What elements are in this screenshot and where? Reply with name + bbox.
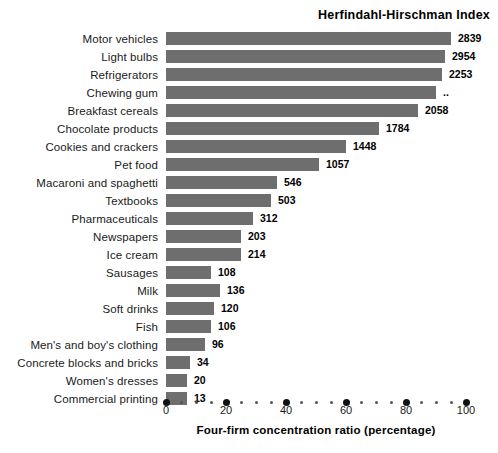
bar-track: 1057 bbox=[166, 158, 496, 172]
bar-track: .. bbox=[166, 86, 496, 100]
bar-value-label: 1448 bbox=[353, 139, 376, 153]
bar bbox=[166, 194, 271, 207]
bar bbox=[166, 320, 211, 333]
bar-value-label: 96 bbox=[212, 337, 224, 351]
bar-track: 20 bbox=[166, 374, 496, 388]
bar-track: 214 bbox=[166, 248, 496, 262]
bar-value-label: 108 bbox=[218, 265, 236, 279]
chart-row: Textbooks503 bbox=[0, 192, 498, 210]
category-label: Concrete blocks and bricks bbox=[0, 357, 158, 370]
bar-value-label: 106 bbox=[218, 319, 236, 333]
chart-row: Ice cream214 bbox=[0, 246, 498, 264]
chart-row: Refrigerators2253 bbox=[0, 66, 498, 84]
bar-value-label: 2058 bbox=[425, 103, 448, 117]
category-label: Cookies and crackers bbox=[0, 141, 158, 154]
bar bbox=[166, 374, 187, 387]
x-axis-tick-labels: 020406080100 bbox=[166, 404, 466, 420]
bar bbox=[166, 248, 241, 261]
bar-value-label: 546 bbox=[284, 175, 302, 189]
bar-track: 2954 bbox=[166, 50, 496, 64]
chart-row: Milk136 bbox=[0, 282, 498, 300]
bar-value-label: 34 bbox=[197, 355, 209, 369]
bar-chart-figure: Herfindahl-Hirschman Index Motor vehicle… bbox=[0, 0, 498, 453]
category-label: Soft drinks bbox=[0, 303, 158, 316]
bar bbox=[166, 302, 214, 315]
category-label: Newspapers bbox=[0, 231, 158, 244]
category-label: Chocolate products bbox=[0, 123, 158, 136]
bar-value-label: 1784 bbox=[386, 121, 409, 135]
chart-row: Motor vehicles2839 bbox=[0, 30, 498, 48]
bar-track: 34 bbox=[166, 356, 496, 370]
bar-track: 503 bbox=[166, 194, 496, 208]
chart-row: Breakfast cereals2058 bbox=[0, 102, 498, 120]
chart-row: Men's and boy's clothing96 bbox=[0, 336, 498, 354]
bar-value-label: 1057 bbox=[326, 157, 349, 171]
category-label: Ice cream bbox=[0, 249, 158, 262]
bar-track: 1784 bbox=[166, 122, 496, 136]
chart-title: Herfindahl-Hirschman Index bbox=[318, 8, 490, 22]
bar bbox=[166, 68, 442, 81]
bar-track: 312 bbox=[166, 212, 496, 226]
category-label: Chewing gum bbox=[0, 87, 158, 100]
category-label: Men's and boy's clothing bbox=[0, 339, 158, 352]
bar-track: 203 bbox=[166, 230, 496, 244]
bar-value-label: 312 bbox=[260, 211, 278, 225]
category-label: Commercial printing bbox=[0, 393, 158, 406]
bar-value-label: 2839 bbox=[458, 31, 481, 45]
bar-track: 96 bbox=[166, 338, 496, 352]
chart-row: Chocolate products1784 bbox=[0, 120, 498, 138]
bar-value-label: 120 bbox=[221, 301, 239, 315]
bar bbox=[166, 212, 253, 225]
x-axis-title: Four-firm concentration ratio (percentag… bbox=[166, 424, 466, 436]
category-label: Pet food bbox=[0, 159, 158, 172]
bar bbox=[166, 104, 418, 117]
bar-track: 136 bbox=[166, 284, 496, 298]
chart-row: Newspapers203 bbox=[0, 228, 498, 246]
bar bbox=[166, 356, 190, 369]
category-label: Fish bbox=[0, 321, 158, 334]
bar-value-label: 136 bbox=[227, 283, 245, 297]
bar bbox=[166, 338, 205, 351]
chart-row: Pet food1057 bbox=[0, 156, 498, 174]
bar bbox=[166, 50, 445, 63]
bar-value-label: .. bbox=[443, 85, 449, 99]
bar-track: 2058 bbox=[166, 104, 496, 118]
bar-value-label: 503 bbox=[278, 193, 296, 207]
chart-row: Concrete blocks and bricks34 bbox=[0, 354, 498, 372]
plot-area: Motor vehicles2839Light bulbs2954Refrige… bbox=[0, 30, 498, 408]
chart-row: Chewing gum.. bbox=[0, 84, 498, 102]
bar bbox=[166, 140, 346, 153]
chart-row: Cookies and crackers1448 bbox=[0, 138, 498, 156]
category-label: Motor vehicles bbox=[0, 33, 158, 46]
bar-track: 106 bbox=[166, 320, 496, 334]
bar bbox=[166, 230, 241, 243]
x-tick-label: 40 bbox=[280, 404, 292, 416]
category-label: Women's dresses bbox=[0, 375, 158, 388]
bar bbox=[166, 32, 451, 45]
category-label: Pharmaceuticals bbox=[0, 213, 158, 226]
chart-row: Pharmaceuticals312 bbox=[0, 210, 498, 228]
category-label: Refrigerators bbox=[0, 69, 158, 82]
bar-value-label: 2954 bbox=[452, 49, 475, 63]
category-label: Milk bbox=[0, 285, 158, 298]
category-label: Macaroni and spaghetti bbox=[0, 177, 158, 190]
bar-value-label: 2253 bbox=[449, 67, 472, 81]
x-tick-label: 20 bbox=[220, 404, 232, 416]
chart-row: Macaroni and spaghetti546 bbox=[0, 174, 498, 192]
category-label: Textbooks bbox=[0, 195, 158, 208]
bar-track: 120 bbox=[166, 302, 496, 316]
bar-value-label: 214 bbox=[248, 247, 266, 261]
chart-row: Sausages108 bbox=[0, 264, 498, 282]
x-tick-label: 0 bbox=[163, 404, 169, 416]
chart-row: Soft drinks120 bbox=[0, 300, 498, 318]
chart-row: Fish106 bbox=[0, 318, 498, 336]
bar bbox=[166, 176, 277, 189]
bar-track: 546 bbox=[166, 176, 496, 190]
bar-track: 1448 bbox=[166, 140, 496, 154]
chart-row: Light bulbs2954 bbox=[0, 48, 498, 66]
x-tick-label: 80 bbox=[400, 404, 412, 416]
category-label: Breakfast cereals bbox=[0, 105, 158, 118]
bar-value-label: 20 bbox=[194, 373, 206, 387]
x-tick-label: 60 bbox=[340, 404, 352, 416]
category-label: Light bulbs bbox=[0, 51, 158, 64]
